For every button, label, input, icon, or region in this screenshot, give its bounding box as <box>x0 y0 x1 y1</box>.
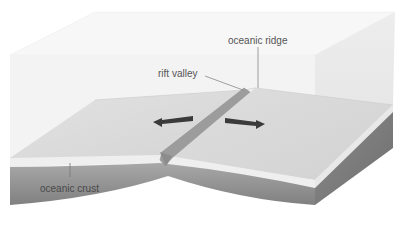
label-oceanic-ridge: oceanic ridge <box>228 36 287 46</box>
label-rift-valley: rift valley <box>158 69 197 79</box>
label-oceanic-crust: oceanic crust <box>40 184 99 194</box>
